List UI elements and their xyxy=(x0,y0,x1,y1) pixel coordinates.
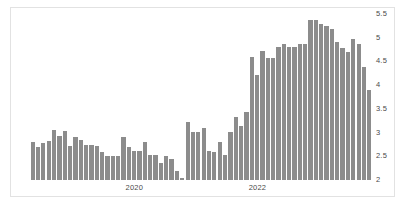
bar-chart: 22.533.544.555.5 20202022 xyxy=(0,0,414,207)
x-axis: 20202022 xyxy=(0,0,414,207)
x-axis-tick-label: 2020 xyxy=(126,184,144,192)
x-axis-tick-label: 2022 xyxy=(249,184,267,192)
